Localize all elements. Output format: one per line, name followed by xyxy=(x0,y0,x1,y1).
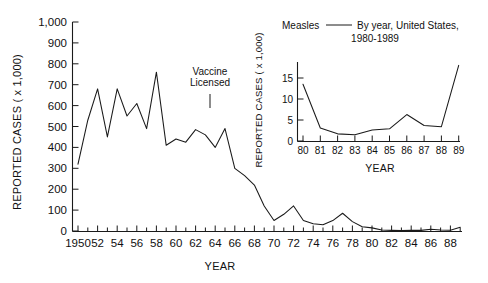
main-chart: REPORTED CASES ( x 1,000) 1,000 900 800 … xyxy=(11,16,462,272)
inset-x-axis-title: YEAR xyxy=(365,162,395,174)
inset-y-tick: 15 xyxy=(282,73,294,84)
main-x-tick: 86 xyxy=(424,237,437,249)
inset-title: Measles By year, United States, 1980-198… xyxy=(282,20,459,44)
inset-x-tick: 83 xyxy=(349,145,361,156)
main-x-axis-title: YEAR xyxy=(205,260,236,272)
main-x-tick: 78 xyxy=(346,237,359,249)
inset-y-axis-label: REPORTED CASES ( x 1,000) xyxy=(253,32,264,167)
main-y-tick: 100 xyxy=(48,204,67,216)
inset-x-tick: 89 xyxy=(453,145,465,156)
inset-chart: Measles By year, United States, 1980-198… xyxy=(253,20,465,174)
main-y-tick: 700 xyxy=(48,79,67,91)
main-y-tick: 900 xyxy=(48,37,67,49)
inset-x-tick: 88 xyxy=(436,145,448,156)
inset-x-tick: 84 xyxy=(367,145,379,156)
main-x-tick: 54 xyxy=(111,237,124,249)
annotation-line-1: Vaccine xyxy=(193,66,228,77)
inset-x-tick: 85 xyxy=(384,145,396,156)
inset-x-tick: 87 xyxy=(419,145,431,156)
inset-y-tick: 10 xyxy=(282,94,294,105)
main-x-tick: 72 xyxy=(287,237,300,249)
main-x-tick: 68 xyxy=(248,237,261,249)
main-y-tick: 800 xyxy=(48,58,67,70)
inset-x-tick: 86 xyxy=(401,145,413,156)
main-x-tick: 74 xyxy=(307,237,320,249)
main-x-tick: 82 xyxy=(385,237,398,249)
inset-title-subject: By year, United States, xyxy=(357,20,459,31)
main-y-tick-labels: 1,000 900 800 700 600 500 400 300 200 10… xyxy=(38,16,67,237)
main-y-tick: 600 xyxy=(48,100,67,112)
main-x-tick-labels: 1950 52 54 56 58 60 62 64 66 68 70 72 74… xyxy=(65,237,457,249)
main-x-tick: 52 xyxy=(91,237,104,249)
main-y-tick: 200 xyxy=(48,183,67,195)
inset-y-tickmarks xyxy=(298,78,304,141)
inset-x-tick: 82 xyxy=(332,145,344,156)
inset-x-tick: 81 xyxy=(315,145,327,156)
inset-x-tickmarks xyxy=(303,136,459,142)
inset-title-measles: Measles xyxy=(282,20,319,31)
annotation-line-2: Licensed xyxy=(190,77,230,88)
main-y-tick: 500 xyxy=(48,121,67,133)
main-x-tick: 60 xyxy=(170,237,183,249)
main-x-tick: 88 xyxy=(444,237,457,249)
inset-x-tick-labels: 80 81 82 83 84 85 86 87 88 89 xyxy=(297,145,464,156)
main-x-tick: 70 xyxy=(268,237,281,249)
inset-x-tick: 80 xyxy=(297,145,309,156)
inset-y-tick: 5 xyxy=(287,115,293,126)
inset-y-tick: 0 xyxy=(287,136,293,147)
main-x-tick: 1950 xyxy=(65,237,91,249)
inset-data-line xyxy=(303,65,459,134)
chart-svg: REPORTED CASES ( x 1,000) 1,000 900 800 … xyxy=(0,0,488,283)
measles-chart-figure: REPORTED CASES ( x 1,000) 1,000 900 800 … xyxy=(0,0,488,283)
main-y-tickmarks xyxy=(73,22,79,231)
inset-y-tick-labels: 15 10 5 0 xyxy=(282,73,294,147)
main-y-tick: 400 xyxy=(48,141,67,153)
main-x-tick: 56 xyxy=(130,237,143,249)
main-x-tick: 76 xyxy=(326,237,339,249)
main-x-tick: 58 xyxy=(150,237,163,249)
main-y-tick: 0 xyxy=(61,225,67,237)
main-x-tick: 64 xyxy=(209,237,222,249)
main-x-tick: 84 xyxy=(405,237,418,249)
vaccine-licensed-annotation: Vaccine Licensed xyxy=(190,66,230,108)
inset-title-years: 1980-1989 xyxy=(351,33,399,44)
main-x-tick: 80 xyxy=(366,237,379,249)
main-x-tick: 66 xyxy=(228,237,241,249)
main-y-axis-label: REPORTED CASES ( x 1,000) xyxy=(11,54,23,210)
main-y-tick: 300 xyxy=(48,162,67,174)
main-x-tick: 62 xyxy=(189,237,202,249)
main-y-tick: 1,000 xyxy=(38,16,67,28)
